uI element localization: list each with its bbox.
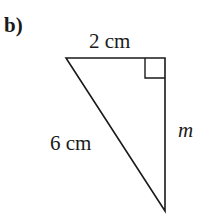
diagram-canvas: b) 2 cm 6 cm m bbox=[0, 0, 210, 214]
right-triangle bbox=[0, 0, 210, 214]
right-angle-marker-icon bbox=[145, 58, 165, 78]
triangle-outline bbox=[66, 58, 165, 211]
